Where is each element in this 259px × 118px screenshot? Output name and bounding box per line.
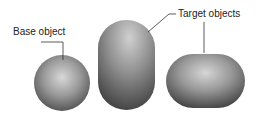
flat-capsule-object bbox=[166, 54, 245, 108]
tall-capsule-object bbox=[98, 20, 155, 110]
base-object-label: Base object bbox=[13, 26, 65, 38]
target-objects-label: Target objects bbox=[178, 8, 240, 20]
sphere-object bbox=[34, 55, 90, 111]
